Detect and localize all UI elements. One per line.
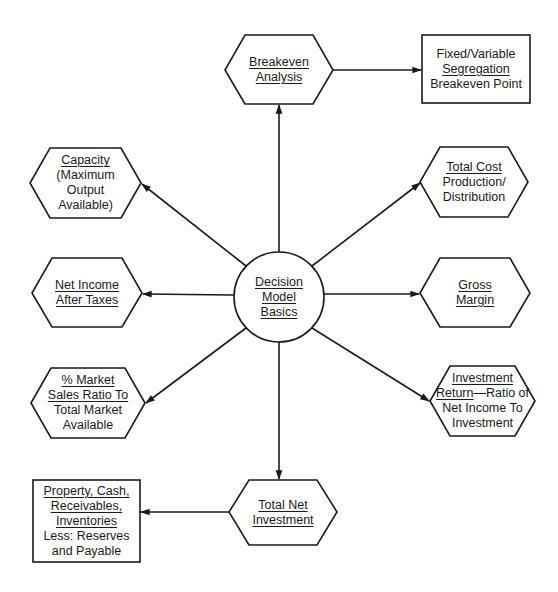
invreturn-label-2b: —Ratio of — [473, 386, 529, 400]
fixed-label-3: Breakeven Point — [430, 77, 522, 92]
totalnet-label-2: Investment — [252, 513, 313, 528]
gross-label-1: Gross — [458, 278, 491, 293]
netincome-label-1: Net Income — [55, 278, 119, 293]
market-label-3: Total Market — [54, 403, 122, 418]
capacity-label-1: Capacity — [61, 153, 110, 168]
invreturn-label-3: Net Income To — [442, 401, 522, 416]
edge-center-capacity — [142, 184, 246, 266]
center-label-3: Basics — [261, 305, 298, 320]
breakeven-label-2: Analysis — [256, 70, 303, 85]
property-label-1: Property, Cash, — [44, 484, 130, 499]
property-node: Property, Cash, Receivables, Inventories… — [33, 480, 140, 562]
total-net-investment-node: Total Net Investment — [229, 480, 337, 545]
property-label-3: Inventories — [56, 514, 117, 529]
capacity-label-2: (Maximum — [56, 168, 114, 183]
invreturn-label-2: Return—Ratio of — [436, 386, 529, 401]
totalcost-label-3: Distribution — [443, 190, 506, 205]
totalcost-label-1: Total Cost — [446, 160, 502, 175]
breakeven-label-1: Breakeven — [249, 55, 309, 70]
capacity-label-4: Available) — [58, 198, 113, 213]
capacity-label-3: Output — [67, 183, 105, 198]
gross-margin-node: Gross Margin — [420, 258, 530, 327]
center-label-2: Model — [262, 290, 296, 305]
edge-center-netincome — [143, 294, 234, 295]
center-label-1: Decision — [255, 275, 303, 290]
market-share-node: % Market Sales Ratio To Total Market Ava… — [31, 368, 145, 438]
investment-return-node: Investment Return—Ratio of Net Income To… — [430, 366, 535, 436]
edge-center-totalcost — [312, 183, 420, 266]
gross-label-2: Margin — [456, 293, 494, 308]
property-label-2: Receivables, — [51, 499, 123, 514]
net-income-node: Net Income After Taxes — [32, 258, 142, 327]
invreturn-label-2a: Return — [436, 386, 474, 400]
property-label-5: and Payable — [52, 544, 122, 559]
netincome-label-2: After Taxes — [56, 293, 118, 308]
center-node: Decision Model Basics — [234, 252, 324, 342]
capacity-node: Capacity (Maximum Output Available) — [30, 148, 141, 218]
fixed-label-1: Fixed/Variable — [437, 47, 516, 62]
market-label-2: Sales Ratio To — [48, 388, 128, 403]
invreturn-label-1: Investment — [452, 371, 513, 386]
fixed-variable-node: Fixed/Variable Segregation Breakeven Poi… — [422, 35, 530, 103]
edge-center-investreturn — [312, 328, 429, 401]
edge-center-market — [146, 328, 246, 403]
breakeven-node: Breakeven Analysis — [225, 35, 333, 104]
totalcost-label-2: Production/ — [442, 175, 505, 190]
invreturn-label-4: Investment — [452, 416, 513, 431]
totalnet-label-1: Total Net — [258, 498, 307, 513]
market-label-1: % Market — [62, 373, 115, 388]
market-label-4: Available — [63, 418, 114, 433]
fixed-label-2: Segregation — [442, 62, 509, 77]
total-cost-node: Total Cost Production/ Distribution — [420, 147, 528, 217]
property-label-4: Less: Reserves — [43, 529, 129, 544]
